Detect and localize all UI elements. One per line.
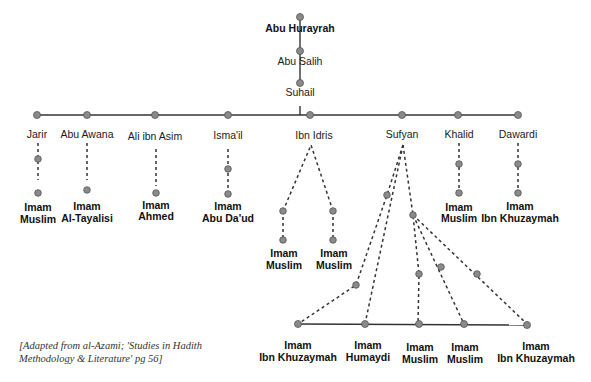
label-imam: Imam <box>451 341 478 353</box>
label-ahmed: Ahmed <box>138 210 174 222</box>
label-imam: Imam <box>24 201 51 213</box>
label-ali-ibn-asim: Ali ibn Asim <box>128 130 183 142</box>
link-ibn-idris <box>283 145 333 211</box>
label-imam: Imam <box>354 339 381 351</box>
label-imam: Imam <box>73 200 100 212</box>
label-suhail: Suhail <box>285 86 314 98</box>
label-jarir: Jarir <box>27 128 48 140</box>
label-abu-salih: Abu Salih <box>278 55 323 67</box>
label-imam: Imam <box>214 200 241 212</box>
label-muslim: Muslim <box>316 259 352 271</box>
label-imam: Imam <box>506 200 533 212</box>
label-dawardi: Dawardi <box>499 128 538 140</box>
node-abu-salih <box>297 48 304 55</box>
sufyan-links <box>298 145 527 324</box>
node-jarir-muslim <box>35 190 42 197</box>
node-al-tayalisi <box>84 187 91 194</box>
label-ismail: Isma'il <box>213 129 242 141</box>
caption-line-2: Methodology & Literature' pg 56] <box>19 352 259 365</box>
label-abu-awana: Abu Awana <box>61 128 114 140</box>
label-humaydi: Humaydi <box>346 351 390 363</box>
label-imam: Imam <box>270 247 297 259</box>
label-al-tayalisi: Al-Tayalisi <box>61 212 113 224</box>
node-abu-hurayrah <box>297 14 304 21</box>
label-imam: Imam <box>406 341 433 353</box>
label-ibn-khuzaymah: Ibn Khuzaymah <box>497 352 575 364</box>
label-muslim: Muslim <box>447 353 483 365</box>
label-imam: Imam <box>284 339 311 351</box>
isnad-diagram: Abu Hurayrah Abu Salih Suhail Jarir Abu … <box>0 0 591 382</box>
label-muslim: Muslim <box>266 259 302 271</box>
node-abu-daud <box>225 191 232 198</box>
label-ibn-khuzaymah: Ibn Khuzaymah <box>259 351 337 363</box>
label-imam: Imam <box>320 247 347 259</box>
label-muslim: Muslim <box>441 212 477 224</box>
label-ibn-idris: Ibn Idris <box>295 129 332 141</box>
label-abu-hurayrah: Abu Hurayrah <box>265 22 334 34</box>
sufyan-collectors-line <box>298 324 527 325</box>
label-ibn-khuzaymah: Ibn Khuzaymah <box>481 212 559 224</box>
node-ismail-mid <box>225 166 232 173</box>
label-muslim: Muslim <box>20 213 56 225</box>
source-caption: [Adapted from al-Azami; 'Studies in Hadi… <box>19 339 259 365</box>
node-ahmed <box>153 190 160 197</box>
label-sufyan: Sufyan <box>386 128 419 140</box>
label-abu-daud: Abu Da'ud <box>202 212 254 224</box>
caption-line-1: [Adapted from al-Azami; 'Studies in Hadi… <box>19 339 259 352</box>
label-imam: Imam <box>522 340 549 352</box>
label-muslim: Muslim <box>402 353 438 365</box>
label-khalid: Khalid <box>444 128 473 140</box>
node-jarir-mid <box>35 156 42 163</box>
